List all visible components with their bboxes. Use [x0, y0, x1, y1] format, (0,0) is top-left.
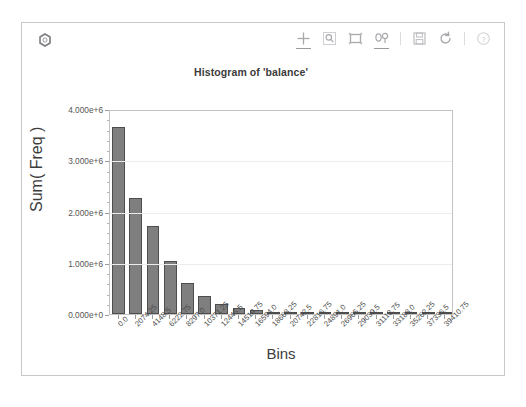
y-tick-minor [107, 284, 110, 285]
y-tick-mark [105, 110, 109, 111]
y-tick-label: 0.000e+0 [53, 310, 103, 320]
y-tick-minor [107, 243, 110, 244]
y-tick-minor [107, 172, 110, 173]
hex-logo-icon [38, 33, 52, 47]
y-tick-minor [107, 254, 110, 255]
y-tick-minor [107, 274, 110, 275]
move-cross-icon [296, 31, 311, 46]
y-tick-minor [107, 305, 110, 306]
y-tick-minor [107, 295, 110, 296]
toolbar-separator-1 [400, 32, 401, 45]
y-tick-label: 3.000e+6 [53, 156, 103, 166]
y-tick-mark [105, 315, 109, 316]
y-tick-label: 1.000e+6 [53, 259, 103, 269]
y-tick-label: 2.000e+6 [53, 208, 103, 218]
svg-text:?: ? [481, 35, 486, 44]
x-axis-label-wrap: Bins [109, 57, 453, 58]
y-tick-minor [107, 192, 110, 193]
bar[interactable] [129, 198, 142, 314]
gridline [110, 161, 452, 162]
y-tick-minor [107, 120, 110, 121]
bar[interactable] [147, 226, 160, 314]
y-tick-minor [107, 141, 110, 142]
screenshot-root: ? Histogram of 'balance' Sum( Freq ) Bin… [0, 0, 526, 407]
chart-panel: ? Histogram of 'balance' Sum( Freq ) Bin… [21, 22, 505, 376]
histogram-chart: Histogram of 'balance' Sum( Freq ) Bins … [22, 57, 506, 375]
y-tick-label: 4.000e+6 [53, 105, 103, 115]
axis-edit-tool[interactable] [373, 30, 390, 47]
floppy-disk-icon [412, 31, 427, 46]
box-select-tool[interactable] [347, 30, 364, 47]
y-tick-mark [105, 161, 109, 162]
question-circle-icon: ? [476, 31, 491, 46]
y-tick-mark [105, 264, 109, 265]
chart-title: Histogram of 'balance' [9, 66, 493, 78]
plot-area[interactable] [109, 110, 453, 315]
y-tick-minor [107, 151, 110, 152]
gridline [110, 264, 452, 265]
x-axis-label: Bins [109, 345, 453, 362]
magnifier-icon [322, 31, 337, 46]
y-tick-minor [107, 182, 110, 183]
y-tick-mark [105, 213, 109, 214]
box-select-icon [348, 31, 363, 46]
axis-edit-icon [374, 31, 390, 46]
toolbar-separator-2 [464, 32, 465, 45]
y-tick-minor [107, 223, 110, 224]
zoom-tool[interactable] [321, 30, 338, 47]
reset-tool[interactable] [437, 30, 454, 47]
save-tool[interactable] [411, 30, 428, 47]
panel-toolbar-row: ? [22, 23, 504, 57]
y-axis-label: Sum( Freq ) [28, 127, 46, 212]
pan-tool[interactable] [295, 30, 312, 47]
gridline [110, 213, 452, 214]
help-tool[interactable]: ? [475, 30, 492, 47]
y-tick-minor [107, 233, 110, 234]
y-tick-minor [107, 131, 110, 132]
bar[interactable] [112, 127, 125, 314]
chart-toolbar: ? [295, 30, 492, 47]
refresh-icon [438, 31, 453, 46]
y-tick-minor [107, 202, 110, 203]
